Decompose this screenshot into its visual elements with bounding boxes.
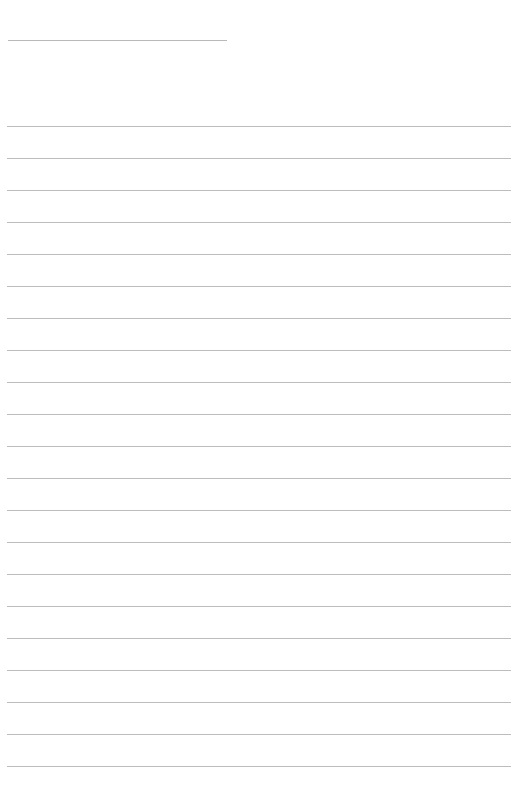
ruled-line: [7, 702, 511, 703]
ruled-line: [7, 542, 511, 543]
ruled-line: [7, 254, 511, 255]
ruled-line: [7, 350, 511, 351]
ruled-line: [7, 318, 511, 319]
ruled-line: [7, 606, 511, 607]
ruled-line: [7, 478, 511, 479]
ruled-line: [7, 638, 511, 639]
header-name-line: [8, 40, 227, 41]
ruled-line: [7, 574, 511, 575]
ruled-line: [7, 414, 511, 415]
ruled-line: [7, 222, 511, 223]
ruled-line: [7, 510, 511, 511]
ruled-line: [7, 734, 511, 735]
ruled-line: [7, 382, 511, 383]
ruled-line: [7, 446, 511, 447]
ruled-line: [7, 286, 511, 287]
ruled-line: [7, 670, 511, 671]
ruled-line: [7, 766, 511, 767]
ruled-line: [7, 190, 511, 191]
ruled-line: [7, 126, 511, 127]
ruled-line: [7, 158, 511, 159]
